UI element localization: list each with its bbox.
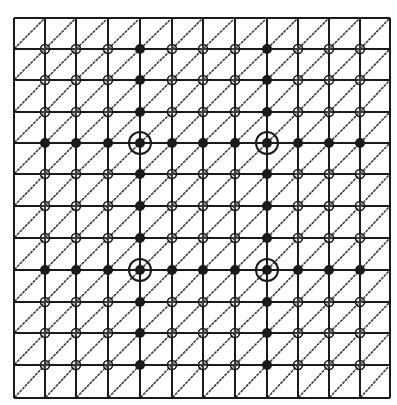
diagonal-line <box>15 271 44 301</box>
open-circle-point <box>168 234 177 243</box>
diagonal-line <box>268 113 297 142</box>
diagonal-line <box>109 334 139 364</box>
diagonal-line <box>268 50 297 79</box>
diagonal-line <box>141 113 171 142</box>
diagonal-line <box>46 271 75 301</box>
filled-dot-point <box>135 169 145 179</box>
open-circle-point <box>231 108 240 117</box>
open-circle-point <box>168 202 177 211</box>
diagonal-line <box>236 239 266 269</box>
diagonal-line <box>330 366 359 397</box>
open-circle-point <box>41 361 50 370</box>
open-circle-point <box>294 329 303 338</box>
diagonal-line <box>299 334 328 364</box>
diagonal-line <box>236 303 266 332</box>
diagonal-line <box>173 366 202 397</box>
open-circle-point <box>41 76 50 85</box>
filled-dot-point <box>135 201 145 211</box>
diagonal-line <box>268 19 297 48</box>
diagonal-line <box>173 239 202 269</box>
open-circle-point <box>104 234 113 243</box>
filled-dot-point <box>355 265 365 275</box>
open-circle-point <box>168 298 177 307</box>
filled-dot-point <box>135 328 145 338</box>
filled-dot-point <box>135 44 145 54</box>
open-circle-point <box>41 45 50 54</box>
diagonal-line <box>77 366 107 397</box>
diagonal-line <box>236 81 266 111</box>
open-circle-point <box>104 298 113 307</box>
filled-dot-point <box>262 75 272 85</box>
diagonal-line <box>15 50 44 79</box>
diagonal-line <box>77 19 107 48</box>
filled-dot-point <box>198 265 208 275</box>
diagonal-line <box>77 144 107 173</box>
open-circle-point <box>231 76 240 85</box>
open-circle-point <box>199 202 208 211</box>
diagonal-line <box>330 113 359 142</box>
diagonal-line <box>15 239 44 269</box>
diagonal-line <box>46 175 75 205</box>
diagonal-line <box>46 19 75 48</box>
filled-dot-point <box>262 138 272 148</box>
diagonal-line <box>299 144 328 173</box>
filled-dot-point <box>135 233 145 243</box>
filled-dot-point <box>135 75 145 85</box>
open-circle-point <box>294 45 303 54</box>
diagonal-line <box>236 271 266 301</box>
diagonal-line <box>141 19 171 48</box>
diagonal-line <box>299 207 328 237</box>
diagonal-line <box>204 303 234 332</box>
open-circle-point <box>72 108 81 117</box>
diagonal-line <box>77 207 107 237</box>
diagonal-line <box>173 144 202 173</box>
diagonal-line <box>236 50 266 79</box>
diagonal-line <box>109 50 139 79</box>
open-circle-point <box>231 170 240 179</box>
diagonal-line <box>268 81 297 111</box>
diagonal-line <box>173 50 202 79</box>
diagonal-line <box>361 239 389 269</box>
diagonal-line <box>204 113 234 142</box>
diagonal-line <box>361 81 389 111</box>
diagonal-line <box>268 207 297 237</box>
filled-dot-point <box>135 360 145 370</box>
filled-dot-point <box>262 44 272 54</box>
open-circle-point <box>294 170 303 179</box>
diagonal-line <box>204 334 234 364</box>
open-circle-point <box>199 170 208 179</box>
diagonal-line <box>204 366 234 397</box>
open-circle-point <box>199 108 208 117</box>
open-circle-point <box>325 45 334 54</box>
diagonal-line <box>236 366 266 397</box>
open-circle-point <box>104 361 113 370</box>
diagonal-line <box>330 81 359 111</box>
filled-dot-point <box>293 265 303 275</box>
diagonal-line <box>236 334 266 364</box>
open-circle-point <box>199 361 208 370</box>
diagonal-line <box>46 81 75 111</box>
open-circle-point <box>325 361 334 370</box>
diagonal-line <box>361 144 389 173</box>
filled-dot-point <box>262 107 272 117</box>
open-circle-point <box>41 329 50 338</box>
open-circle-point <box>41 234 50 243</box>
filled-dot-point <box>355 138 365 148</box>
diagonal-line <box>15 81 44 111</box>
open-circle-point <box>72 76 81 85</box>
diagonal-line <box>330 19 359 48</box>
filled-dot-point <box>293 138 303 148</box>
open-circle-point <box>325 329 334 338</box>
diagonal-line <box>361 50 389 79</box>
diagonal-line <box>173 113 202 142</box>
diagonal-line <box>268 366 297 397</box>
open-circle-point <box>356 76 365 85</box>
diagonal-line <box>236 144 266 173</box>
filled-dot-point <box>198 138 208 148</box>
filled-dot-point <box>262 297 272 307</box>
filled-dot-point <box>262 265 272 275</box>
open-circle-point <box>72 202 81 211</box>
open-circle-point <box>356 298 365 307</box>
diagonal-line <box>141 239 171 269</box>
open-circle-point <box>294 76 303 85</box>
